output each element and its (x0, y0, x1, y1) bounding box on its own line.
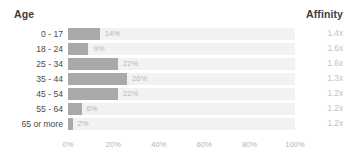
row-category-label: 35 - 44 (0, 73, 63, 85)
row-category-label: 0 - 17 (0, 28, 63, 40)
chart-header: Age Affinity (0, 8, 351, 24)
chart-row: 45 - 5422%1.2x (0, 88, 351, 100)
row-category-label: 45 - 54 (0, 88, 63, 100)
row-category-label: 55 - 64 (0, 103, 63, 115)
row-track (68, 73, 295, 85)
row-track (68, 118, 295, 130)
column-header-age: Age (14, 8, 34, 20)
row-affinity-value: 1.3x (328, 73, 343, 85)
row-track (68, 88, 295, 100)
column-header-affinity: Affinity (306, 8, 343, 20)
row-value-label: 6% (87, 103, 98, 115)
row-bar (68, 88, 118, 100)
x-axis-tick-label: 100% (285, 140, 304, 149)
x-axis-tick-label: 0% (63, 140, 74, 149)
x-axis-tick-label: 20% (106, 140, 121, 149)
x-axis-tick-label: 80% (242, 140, 257, 149)
chart-row: 18 - 249%1.6x (0, 43, 351, 55)
row-bar (68, 73, 127, 85)
row-affinity-value: 1.2x (328, 118, 343, 130)
chart-row: 55 - 646%1.2x (0, 103, 351, 115)
chart-row: 0 - 1714%1.4x (0, 28, 351, 40)
row-affinity-value: 1.6x (328, 43, 343, 55)
row-value-label: 22% (123, 58, 138, 70)
chart-row: 25 - 3422%1.6x (0, 58, 351, 70)
row-value-label: 9% (93, 43, 104, 55)
row-category-label: 25 - 34 (0, 58, 63, 70)
x-axis: 0%20%40%60%80%100% (68, 140, 295, 154)
chart-rows: 0 - 1714%1.4x18 - 249%1.6x25 - 3422%1.6x… (0, 28, 351, 133)
row-value-label: 26% (132, 73, 147, 85)
row-track (68, 58, 295, 70)
row-affinity-value: 1.2x (328, 103, 343, 115)
row-value-label: 22% (123, 88, 138, 100)
row-bar (68, 58, 118, 70)
row-affinity-value: 1.4x (328, 28, 343, 40)
x-axis-tick-label: 60% (197, 140, 212, 149)
row-category-label: 18 - 24 (0, 43, 63, 55)
row-affinity-value: 1.2x (328, 88, 343, 100)
age-affinity-bar-chart: Age Affinity 0 - 1714%1.4x18 - 249%1.6x2… (0, 0, 351, 163)
x-axis-tick-label: 40% (151, 140, 166, 149)
row-track (68, 103, 295, 115)
row-value-label: 2% (78, 118, 89, 130)
row-value-label: 14% (105, 28, 120, 40)
row-bar (68, 28, 100, 40)
row-track (68, 28, 295, 40)
row-bar (68, 118, 73, 130)
chart-row: 65 or more2%1.2x (0, 118, 351, 130)
row-bar (68, 43, 88, 55)
row-affinity-value: 1.6x (328, 58, 343, 70)
row-bar (68, 103, 82, 115)
row-category-label: 65 or more (0, 118, 63, 130)
chart-row: 35 - 4426%1.3x (0, 73, 351, 85)
